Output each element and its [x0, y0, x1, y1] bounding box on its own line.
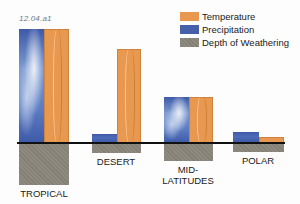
legend-label: Temperature [202, 10, 255, 23]
category-label-mid-latitudes-line1: MID- [158, 164, 218, 175]
figure-id: 12.04.a1 [19, 14, 52, 23]
weathering-chart: 12.04.a1 Temperature Precipitation Depth… [0, 0, 300, 204]
polar-weathering-bar [233, 143, 284, 152]
legend-label: Depth of Weathering [202, 36, 289, 49]
category-label-polar: POLAR [228, 155, 288, 166]
legend: Temperature Precipitation Depth of Weath… [180, 10, 289, 49]
weathering-swatch-icon [180, 38, 199, 47]
temperature-swatch-icon [180, 12, 199, 21]
desert-temperature-bar [117, 49, 141, 143]
legend-item-temperature: Temperature [180, 10, 289, 23]
ground-baseline [17, 142, 285, 144]
mid-latitudes-weathering-bar [164, 143, 213, 161]
legend-item-depth-of-weathering: Depth of Weathering [180, 36, 289, 49]
tropical-precipitation-bar [19, 29, 44, 143]
category-label-desert: DESERT [86, 156, 146, 167]
legend-label: Precipitation [202, 23, 254, 36]
heat-wave-icon [197, 97, 206, 143]
tropical-weathering-bar [19, 143, 69, 185]
desert-weathering-bar [92, 143, 141, 153]
legend-item-precipitation: Precipitation [180, 23, 289, 36]
category-label-mid-latitudes-line2: LATITUDES [158, 175, 218, 186]
tropical-temperature-bar [44, 29, 69, 143]
heat-wave-icon [125, 49, 134, 143]
heat-wave-icon [53, 29, 63, 143]
category-label-tropical: TROPICAL [14, 188, 74, 199]
mid-latitudes-precipitation-bar [164, 97, 189, 143]
mid-latitudes-temperature-bar [189, 97, 213, 143]
precipitation-swatch-icon [180, 25, 199, 34]
